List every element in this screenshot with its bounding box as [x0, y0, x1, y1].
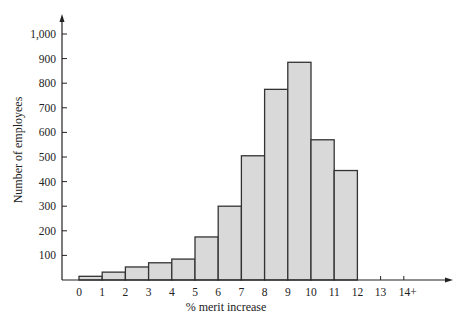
x-tick-label: 0 [76, 286, 82, 298]
histogram-bar [172, 259, 195, 280]
histogram-bar [334, 171, 357, 280]
y-axis-title: Number of employees [11, 96, 25, 203]
histogram-bar [241, 156, 264, 280]
x-tick-label: 6 [215, 286, 221, 298]
histogram-bar [218, 206, 241, 280]
y-axis-arrow-icon [60, 14, 65, 22]
x-tick-label: 3 [146, 286, 152, 298]
x-tick-label: 4 [169, 286, 175, 298]
y-tick-label: 300 [39, 200, 57, 212]
histogram-bar [102, 272, 125, 280]
x-tick-label: 5 [192, 286, 198, 298]
y-tick-label: 900 [39, 53, 57, 65]
x-tick-label: 7 [239, 286, 245, 298]
x-tick-label: 12 [352, 286, 364, 298]
y-axis [60, 14, 65, 280]
histogram-chart: 1002003004005006007008009001,000 0123456… [0, 0, 453, 325]
x-tick-label: 8 [262, 286, 268, 298]
y-tick-label: 500 [39, 151, 57, 163]
y-tick-label: 200 [39, 225, 57, 237]
x-tick-label: 9 [285, 286, 291, 298]
x-tick-label: 2 [123, 286, 129, 298]
histogram-bar [311, 140, 334, 280]
y-tick-label: 800 [39, 77, 57, 89]
y-tick-label: 400 [39, 176, 57, 188]
x-tick-label: 14+ [399, 286, 417, 298]
y-tick-label: 600 [39, 126, 57, 138]
x-axis-arrow-icon [445, 278, 453, 283]
histogram-bar [265, 89, 288, 280]
y-tick-label: 1,000 [30, 28, 56, 41]
histogram-bars [79, 62, 357, 280]
y-tick-label: 700 [39, 102, 57, 114]
x-axis-title: % merit increase [186, 300, 267, 314]
x-tick-label: 10 [305, 286, 317, 298]
histogram-bar [195, 237, 218, 280]
x-tick-label: 13 [375, 286, 387, 298]
y-tick-label: 100 [39, 249, 57, 261]
x-tick-label: 11 [329, 286, 340, 298]
histogram-bar [149, 263, 172, 280]
histogram-bar [125, 267, 148, 280]
histogram-bar [288, 62, 311, 280]
x-tick-label: 1 [99, 286, 105, 298]
